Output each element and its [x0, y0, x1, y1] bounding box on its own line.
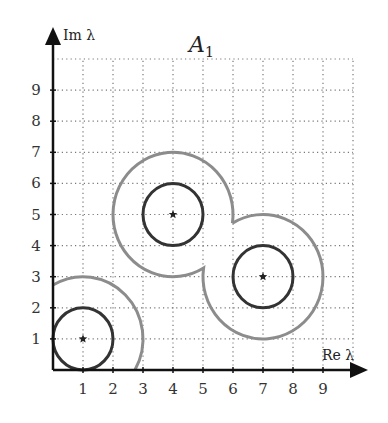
x-tick-label: 4: [168, 380, 178, 398]
y-tick-label: 5: [31, 206, 41, 224]
star-marker-icon: [79, 334, 88, 342]
y-axis-label: Im λ: [63, 27, 95, 43]
star-marker-icon: [259, 272, 268, 280]
x-tick-label: 2: [108, 380, 118, 398]
diagram-title: A1: [187, 32, 214, 60]
x-tick-label: 3: [138, 380, 148, 398]
x-tick-label: 6: [228, 380, 238, 398]
y-tick-label: 2: [31, 299, 41, 317]
outer-contour-lambda1: [53, 277, 143, 370]
x-tick-label: 8: [288, 380, 298, 398]
y-axis-arrow-icon: [45, 27, 61, 45]
eigenvalue-region-diagram: 123456789123456789 Im λ Re λ A1: [0, 0, 388, 423]
x-axis-label: Re λ: [322, 347, 354, 363]
star-marker-icon: [169, 210, 178, 218]
axis-ticks: 123456789123456789: [31, 81, 328, 398]
axes: [45, 27, 368, 378]
y-tick-label: 4: [31, 237, 41, 255]
y-tick-label: 6: [31, 174, 41, 192]
x-tick-label: 5: [198, 380, 208, 398]
y-tick-label: 7: [31, 143, 41, 161]
x-tick-label: 7: [258, 380, 268, 398]
y-tick-label: 8: [31, 112, 41, 130]
outer-region-contours: [53, 152, 323, 370]
x-axis-arrow-icon: [350, 362, 368, 378]
y-tick-label: 3: [31, 268, 41, 286]
y-tick-label: 9: [31, 81, 41, 99]
x-tick-label: 9: [318, 380, 328, 398]
y-tick-label: 1: [31, 330, 41, 348]
x-tick-label: 1: [78, 380, 88, 398]
